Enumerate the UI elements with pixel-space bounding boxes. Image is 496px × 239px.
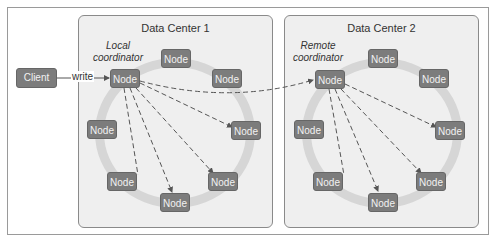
dc1-node: Node xyxy=(212,69,242,88)
remote-coordinator-label: Remote coordinator xyxy=(288,40,348,64)
client-node: Client xyxy=(16,68,57,88)
dc1-node: Node xyxy=(161,49,191,68)
dc1-node: Node xyxy=(160,193,190,212)
dc2-node: Node xyxy=(368,49,398,68)
dc1-node: Node xyxy=(231,121,261,140)
dc2-node: Node xyxy=(419,69,449,88)
arrows-layer xyxy=(0,0,496,239)
write-label: write xyxy=(71,71,94,82)
dc2-node: Node xyxy=(368,193,398,212)
dc1-node: Node xyxy=(107,172,137,191)
dc1-node: Node xyxy=(208,172,238,191)
dc2-node-remote-coordinator: Node xyxy=(315,70,345,89)
dc2-node: Node xyxy=(435,121,465,140)
dc1-node-local-coordinator: Node xyxy=(110,69,140,88)
dc1-node: Node xyxy=(87,120,117,139)
dc2-node: Node xyxy=(313,172,343,191)
dc2-node: Node xyxy=(294,120,324,139)
local-coordinator-label: Local coordinator xyxy=(88,40,148,64)
dc2-node: Node xyxy=(416,172,446,191)
